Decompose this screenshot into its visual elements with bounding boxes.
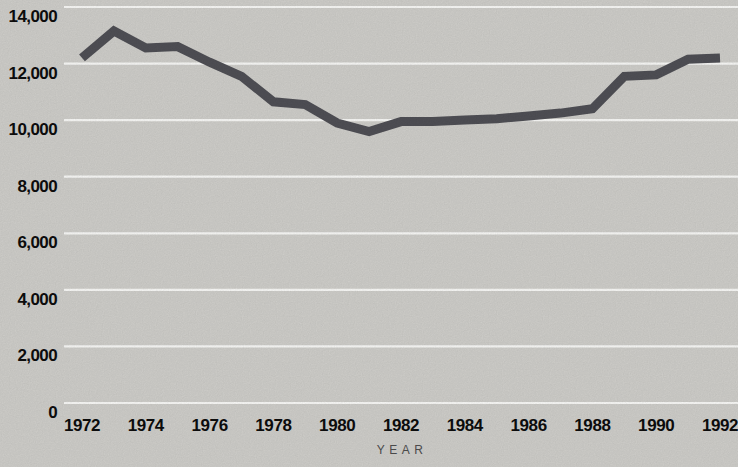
y-tick-label: 14,000 xyxy=(9,7,58,26)
x-tick-label: 1980 xyxy=(319,416,355,435)
y-tick-label: 4,000 xyxy=(17,290,57,309)
y-tick-label: 0 xyxy=(48,403,57,422)
y-tick-label: 12,000 xyxy=(9,64,58,83)
x-axis-title: YEAR xyxy=(377,443,428,457)
x-tick-label: 1982 xyxy=(383,416,419,435)
x-tick-label: 1992 xyxy=(702,416,738,435)
x-tick-label: 1978 xyxy=(255,416,291,435)
line-chart: 02,0004,0006,0008,00010,00012,00014,0001… xyxy=(0,0,738,467)
x-tick-label: 1974 xyxy=(128,416,165,435)
y-tick-label: 6,000 xyxy=(17,233,57,252)
line-chart-canvas: 02,0004,0006,0008,00010,00012,00014,0001… xyxy=(0,0,738,467)
y-tick-label: 2,000 xyxy=(17,346,57,365)
y-tick-label: 8,000 xyxy=(17,177,57,196)
x-tick-label: 1988 xyxy=(574,416,610,435)
x-tick-label: 1990 xyxy=(638,416,674,435)
x-tick-label: 1976 xyxy=(191,416,227,435)
x-tick-label: 1984 xyxy=(447,416,484,435)
x-tick-label: 1972 xyxy=(64,416,100,435)
y-tick-label: 10,000 xyxy=(9,120,58,139)
data-line xyxy=(82,31,720,132)
x-tick-label: 1986 xyxy=(510,416,546,435)
